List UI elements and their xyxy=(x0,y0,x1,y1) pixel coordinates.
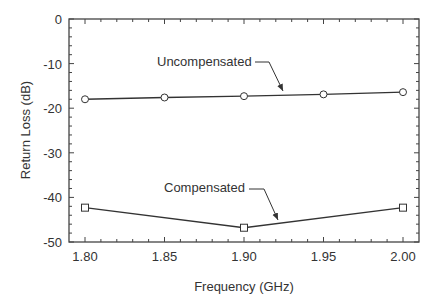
y-axis-label: Return Loss (dB) xyxy=(18,81,33,179)
annotation-label: Compensated xyxy=(164,180,245,195)
series-annotations: UncompensatedCompensated xyxy=(157,54,283,220)
x-tick-label: 2.00 xyxy=(390,249,415,264)
x-tick-label: 1.80 xyxy=(72,249,97,264)
square-marker xyxy=(241,224,248,231)
circle-marker xyxy=(241,93,248,100)
arrow-icon xyxy=(255,62,283,91)
square-marker xyxy=(82,204,89,211)
series-compensated xyxy=(82,204,407,231)
y-tick-label: -20 xyxy=(43,101,62,116)
x-tick-label: 1.90 xyxy=(231,249,256,264)
circle-marker xyxy=(82,96,89,103)
circle-marker xyxy=(161,94,168,101)
y-tick-label: 0 xyxy=(55,12,62,27)
series-uncompensated xyxy=(82,89,407,103)
circle-marker xyxy=(400,89,407,96)
y-tick-label: -10 xyxy=(43,57,62,72)
y-tick-label: -40 xyxy=(43,190,62,205)
arrow-icon xyxy=(249,189,278,220)
plot-frame xyxy=(69,19,419,242)
plot-border xyxy=(69,19,419,242)
x-tick-label: 1.85 xyxy=(152,249,177,264)
y-tick-label: -50 xyxy=(43,235,62,250)
axis-ticks xyxy=(69,19,419,242)
y-tick-label: -30 xyxy=(43,146,62,161)
return-loss-chart: 1.801.851.901.952.000-10-20-30-40-50 Unc… xyxy=(0,0,437,302)
circle-marker xyxy=(320,91,327,98)
x-axis-label: Frequency (GHz) xyxy=(194,279,294,294)
square-marker xyxy=(400,204,407,211)
data-series xyxy=(82,89,407,232)
x-tick-label: 1.95 xyxy=(311,249,336,264)
annotation-label: Uncompensated xyxy=(157,54,252,69)
